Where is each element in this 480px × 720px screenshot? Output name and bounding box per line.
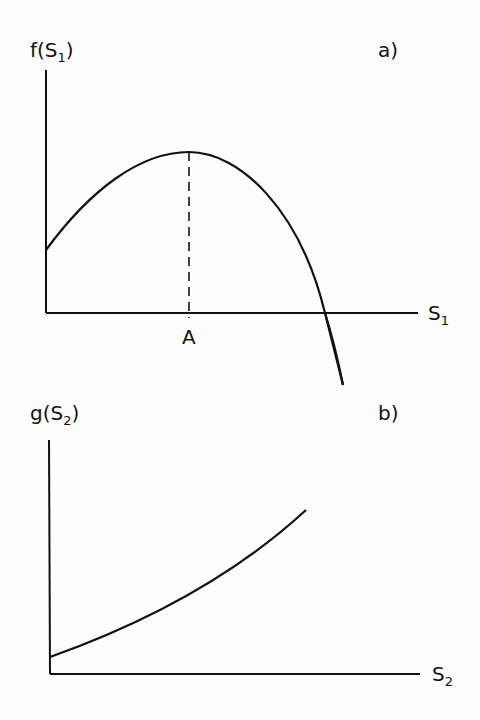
panel-tag-b: b) xyxy=(378,401,399,425)
panel-a: f(S1) a) S1 A xyxy=(30,38,449,385)
y-label-b: g(S2) xyxy=(30,401,79,428)
panel-tag-a: a) xyxy=(378,38,398,62)
figure: f(S1) a) S1 A g(S2) b) S2 xyxy=(0,0,480,720)
x-label-a: S1 xyxy=(428,301,449,328)
curve-f xyxy=(46,152,343,385)
tick-label-A: A xyxy=(182,325,196,349)
panel-b: g(S2) b) S2 xyxy=(30,401,453,689)
curve-g xyxy=(50,510,306,657)
curve-f-tail xyxy=(325,313,343,385)
y-label-a: f(S1) xyxy=(30,38,74,65)
x-label-b: S2 xyxy=(432,662,453,689)
y-axis-b xyxy=(49,440,50,674)
